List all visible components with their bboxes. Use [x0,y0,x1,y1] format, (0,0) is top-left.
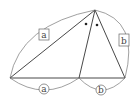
diagram-canvas: a b a b [0,0,138,100]
box-label-a: a [41,30,47,40]
circle-label-a: a [41,84,47,94]
angle-mark-dot-right [96,24,99,27]
box-label-b: b [121,36,127,46]
angle-mark-dot-left [85,23,88,26]
angle-bisector [79,10,95,78]
angle-bisector-diagram: a b a b [0,0,138,100]
circle-label-b: b [98,85,104,95]
side-left [10,10,95,78]
